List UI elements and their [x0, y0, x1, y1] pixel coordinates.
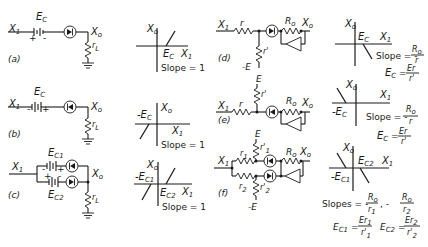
output-label: Xo: [90, 26, 102, 39]
svg-text:Xo: Xo: [91, 168, 103, 181]
svg-text:, -: , -: [380, 199, 389, 209]
svg-text:X1: X1: [379, 89, 391, 102]
svg-text:r'2: r'2: [407, 228, 418, 240]
resistor-icon: [234, 28, 253, 34]
resistor-icon: [232, 109, 251, 115]
svg-text:EC: EC: [163, 48, 174, 61]
amplifier-icon: [285, 169, 300, 183]
svg-text:-E: -E: [242, 62, 251, 72]
resistor-icon: [281, 28, 301, 34]
ground-icon: [82, 63, 94, 68]
svg-text:Ro: Ro: [402, 193, 412, 204]
svg-text:Slope = 1: Slope = 1: [161, 140, 205, 150]
svg-text:E: E: [255, 129, 261, 139]
circuit-b: X1 EC - + Xo rL (b): [8, 86, 102, 144]
amplifier-icon: [286, 117, 301, 131]
diode-icon: [66, 160, 78, 172]
svg-text:=: =: [391, 131, 399, 141]
caption-a: (a): [8, 54, 21, 64]
svg-text:Xo: Xo: [342, 142, 354, 155]
svg-text:r': r': [401, 137, 407, 146]
resistor-icon: [281, 109, 301, 115]
svg-text:Xo: Xo: [345, 79, 357, 92]
svg-text:r2: r2: [239, 182, 247, 194]
svg-text:EC: EC: [377, 130, 388, 143]
input-label: X1: [8, 23, 20, 36]
svg-text:Slope = 1: Slope = 1: [161, 63, 205, 73]
battery-icon: [32, 102, 41, 112]
svg-text:r'1: r'1: [361, 228, 371, 240]
circuit-e: E r' X1 r Ro Xo (e): [216, 74, 313, 131]
svg-text:X1: X1: [171, 125, 183, 138]
diode-limiter-diagram: X1 EC + - Xo rL (a) Xo EC X1 Slope = 1 X…: [0, 0, 428, 247]
svg-text:r': r': [409, 74, 415, 83]
svg-text:Ro: Ro: [368, 193, 378, 204]
resistor-icon: [85, 42, 91, 58]
diode-icon: [266, 25, 278, 37]
svg-text:Slope = -: Slope = -: [366, 112, 407, 122]
amplifier-icon: [286, 37, 301, 51]
circuit-a: X1 EC + - Xo rL (a): [8, 11, 102, 68]
svg-text:X1: X1: [11, 161, 23, 174]
resistor-icon: [254, 88, 260, 104]
svg-text:Er: Er: [407, 64, 416, 73]
resistor-icon: [253, 143, 259, 159]
svg-text:-EC1: -EC1: [135, 171, 154, 184]
svg-text:EC2: EC2: [380, 222, 396, 234]
svg-text:Slope = 1: Slope = 1: [162, 202, 206, 212]
svg-text:X1: X1: [180, 48, 192, 61]
resistor-icon: [85, 118, 91, 134]
svg-text:EC2: EC2: [358, 155, 374, 168]
graph-c: Xo -EC1 EC2 X1 Slope = 1: [134, 159, 206, 212]
svg-text:Slopes = -: Slopes = -: [322, 199, 368, 209]
graph-d: Xo EC X1 Slope = - Ro r EC = Er r': [335, 18, 424, 83]
svg-text:r2: r2: [403, 205, 411, 216]
svg-text:-: -: [27, 104, 30, 114]
svg-text:Er2: Er2: [405, 216, 418, 227]
svg-text:rL: rL: [92, 41, 99, 53]
svg-text:rL: rL: [92, 120, 99, 132]
svg-text:X1: X1: [379, 31, 391, 44]
svg-text:=: =: [399, 68, 407, 78]
svg-text:r: r: [240, 18, 245, 28]
svg-text:+: +: [29, 33, 37, 43]
svg-text:r1: r1: [240, 149, 248, 161]
svg-text:Xo: Xo: [344, 18, 356, 31]
svg-text:r': r': [263, 47, 269, 56]
svg-text:Ro: Ro: [285, 16, 296, 28]
svg-text:EC: EC: [34, 86, 45, 99]
svg-text:EC1: EC1: [333, 222, 348, 234]
svg-text:-: -: [43, 33, 46, 43]
svg-text:Xo: Xo: [146, 23, 158, 36]
svg-text:+: +: [42, 104, 50, 114]
caption-b: (b): [8, 129, 21, 139]
svg-text:E: E: [256, 74, 262, 84]
svg-text:X1: X1: [8, 98, 20, 111]
battery-label: EC: [36, 11, 47, 24]
graph-f: Xo -EC1 EC2 X1 Slopes = - Ro r1 , - Ro r…: [322, 142, 420, 240]
svg-text:-EC: -EC: [332, 106, 347, 119]
svg-text:-: -: [58, 171, 61, 181]
resistor-icon: [256, 46, 262, 62]
svg-text:r: r: [239, 99, 244, 109]
resistor-icon: [281, 158, 301, 164]
svg-text:-EC1: -EC1: [331, 171, 350, 184]
svg-text:EC1: EC1: [48, 147, 64, 160]
graph-b: Xo -EC X1 Slope = 1: [135, 102, 205, 150]
diode-icon: [64, 101, 76, 113]
svg-text:Xo: Xo: [301, 17, 313, 30]
svg-text:+: +: [44, 171, 52, 181]
svg-text:Er: Er: [399, 127, 408, 136]
svg-text:Xo: Xo: [301, 97, 313, 110]
svg-text:r'2: r'2: [260, 183, 271, 195]
svg-text:-E: -E: [248, 202, 257, 212]
svg-text:r'1: r'1: [260, 143, 270, 155]
caption-d: (d): [218, 53, 231, 63]
svg-text:=: =: [351, 222, 359, 232]
svg-text:Xo: Xo: [146, 159, 158, 172]
svg-text:X1: X1: [217, 100, 229, 113]
caption-c: (c): [8, 190, 20, 200]
svg-text:X1: X1: [217, 19, 229, 32]
svg-text:r': r': [261, 90, 267, 99]
ground-icon: [82, 139, 94, 144]
